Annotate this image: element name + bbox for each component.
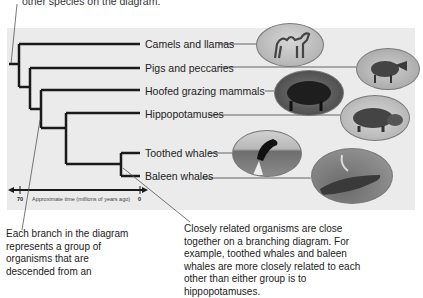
left-callout-text: Each branch in the diagram represents a … [6, 228, 131, 278]
axis-tick-end: 0 [138, 196, 141, 202]
taxon-label-camels: Camels and llamas [145, 38, 234, 50]
camel-photo [256, 23, 324, 67]
axis-tick-start: 70 [17, 196, 23, 202]
humpback-whale-photo [311, 148, 393, 204]
taxon-label-hippos: Hippopotamuses [145, 108, 224, 120]
hippo-photo [340, 95, 410, 141]
right-callout-text: Closely related organisms are close toge… [184, 223, 380, 298]
orca-photo [232, 130, 302, 177]
bison-photo [274, 70, 344, 116]
caption-leader-line [11, 4, 17, 64]
taxon-label-hoofed: Hoofed grazing mammals [145, 85, 265, 97]
taxon-label-baleen-whales: Baleen whales [145, 170, 213, 182]
pig-photo [356, 48, 420, 90]
taxon-label-toothed-whales: Toothed whales [145, 147, 218, 159]
axis-label: Approximate time (millions of years ago) [32, 196, 130, 202]
taxon-label-pigs: Pigs and peccaries [145, 62, 234, 74]
left-callout-leader [22, 120, 40, 230]
